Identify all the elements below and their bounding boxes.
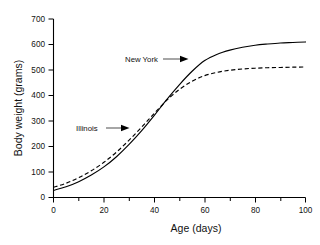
y-tick-label: 300: [31, 117, 45, 126]
series-line-new-york: [54, 42, 306, 190]
arrow-right-icon: [180, 56, 189, 62]
y-tick-label: 200: [31, 142, 45, 151]
x-tick-label: 40: [150, 206, 160, 215]
y-axis-ticks: [49, 19, 54, 198]
chart-canvas: Body weight (grams) Age (days) 0 100 200…: [0, 0, 320, 245]
x-axis-tick-labels: 0 20 40 60 80 100: [51, 206, 313, 215]
annotation-new-york: New York: [125, 55, 189, 64]
y-tick-label: 0: [40, 193, 45, 202]
y-tick-label: 400: [31, 91, 45, 100]
y-axis-tick-labels: 0 100 200 300 400 500 600 700: [31, 15, 45, 203]
growth-curve-chart: Body weight (grams) Age (days) 0 100 200…: [0, 0, 320, 245]
y-tick-label: 700: [31, 15, 45, 24]
x-tick-label: 0: [51, 206, 56, 215]
y-tick-label: 100: [31, 168, 45, 177]
y-tick-label: 600: [31, 40, 45, 49]
x-axis-ticks: [54, 198, 306, 203]
arrow-right-icon: [121, 125, 130, 131]
y-axis-title: Body weight (grams): [12, 60, 24, 156]
x-tick-label: 60: [200, 206, 210, 215]
x-tick-label: 20: [99, 206, 109, 215]
annotation-illinois: Illinois: [76, 124, 130, 133]
x-axis-title: Age (days): [171, 222, 222, 234]
annotation-label-new-york: New York: [125, 55, 158, 64]
annotation-label-illinois: Illinois: [76, 124, 98, 133]
y-tick-label: 500: [31, 66, 45, 75]
x-tick-label: 80: [251, 206, 261, 215]
x-tick-label: 100: [299, 206, 313, 215]
